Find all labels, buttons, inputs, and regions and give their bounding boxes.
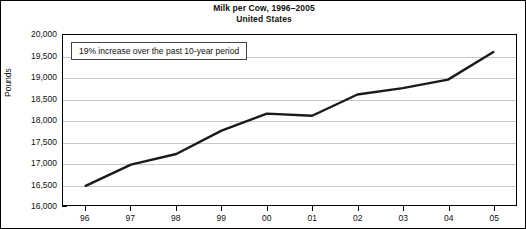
y-axis-tick-label: 19,500 (31, 51, 57, 61)
x-axis-tick-label: 05 (490, 213, 499, 223)
y-axis-tick-labels: 20,00019,50019,00018,50018,00017,50017,0… (13, 34, 57, 206)
x-axis-tick-mark (494, 206, 495, 211)
x-axis-tick-label: 01 (308, 213, 317, 223)
series-line-milk-per-cow (86, 52, 494, 186)
x-axis-tick-mark (85, 206, 86, 211)
plot-area: 19% increase over the past 10-year perio… (62, 34, 517, 206)
x-axis-tick-label: 02 (353, 213, 362, 223)
y-axis-title: Pounds (3, 68, 13, 97)
x-axis-tick-mark (403, 206, 404, 211)
chart-figure: Milk per Cow, 1996–2005 United States Po… (0, 0, 526, 229)
x-axis-tick-label: 98 (171, 213, 180, 223)
y-axis-tick-label: 19,000 (31, 72, 57, 82)
x-axis-tick-label: 03 (399, 213, 408, 223)
x-axis-tick-mark (221, 206, 222, 211)
x-axis-tick-label: 97 (126, 213, 135, 223)
x-axis-tick-mark (267, 206, 268, 211)
y-axis-tick-label: 18,500 (31, 94, 57, 104)
x-axis-tick-mark (130, 206, 131, 211)
x-axis-tick-label: 99 (217, 213, 226, 223)
y-axis-tick-label: 18,000 (31, 115, 57, 125)
y-axis-tick-label: 17,500 (31, 137, 57, 147)
x-axis-tick-mark (358, 206, 359, 211)
x-axis-tick-label: 04 (444, 213, 453, 223)
x-axis-tick-mark (449, 206, 450, 211)
y-axis-tick-label: 16,000 (31, 201, 57, 211)
chart-title-block: Milk per Cow, 1996–2005 United States (1, 3, 526, 24)
data-line-svg (63, 35, 516, 205)
annotation-callout: 19% increase over the past 10-year perio… (71, 42, 247, 60)
y-axis-tick-label: 20,000 (31, 29, 57, 39)
chart-subtitle: United States (1, 14, 526, 25)
x-axis-tick-mark (176, 206, 177, 211)
chart-title: Milk per Cow, 1996–2005 (1, 3, 526, 14)
y-axis-tick-label: 17,000 (31, 158, 57, 168)
x-axis-tick-labels: 96979899000102030405 (62, 206, 517, 229)
x-axis-tick-label: 00 (262, 213, 271, 223)
x-axis-tick-label: 96 (80, 213, 89, 223)
y-axis-tick-label: 16,500 (31, 180, 57, 190)
x-axis-tick-mark (312, 206, 313, 211)
